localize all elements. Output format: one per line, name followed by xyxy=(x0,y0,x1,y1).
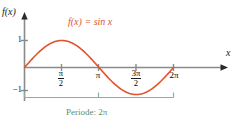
period-annotation-label: Periode: 2π xyxy=(66,108,107,117)
fraction-numerator: π xyxy=(58,69,64,78)
fraction-3pi-over-2: 3π 2 xyxy=(131,69,142,87)
period-bracket xyxy=(25,93,174,98)
fraction-pi-over-2: π 2 xyxy=(58,69,64,87)
y-axis-label: f(x) xyxy=(2,7,16,17)
x-axis-label: x xyxy=(226,48,230,58)
sine-function-figure: f(x) x 1 −1 π 2 π 3π 2 2π f(x) = sin x P… xyxy=(0,0,243,127)
x-tick-label-2pi: 2π xyxy=(163,70,185,80)
x-tick-label-3pi-over-2: 3π 2 xyxy=(126,69,146,88)
fraction-denominator: 2 xyxy=(58,78,64,88)
fraction-numerator: 3π xyxy=(131,69,142,78)
x-tick-label-pi-over-2: π 2 xyxy=(51,69,71,88)
y-tick-label-1: 1 xyxy=(10,35,22,44)
y-tick-label-neg-1: −1 xyxy=(4,85,22,94)
function-equation-label: f(x) = sin x xyxy=(68,17,112,27)
y-axis-arrowhead xyxy=(21,12,27,20)
fraction-denominator: 2 xyxy=(131,78,142,88)
x-tick-label-pi: π xyxy=(88,70,108,80)
plot-canvas xyxy=(0,0,243,127)
x-axis-arrowhead xyxy=(221,64,229,70)
